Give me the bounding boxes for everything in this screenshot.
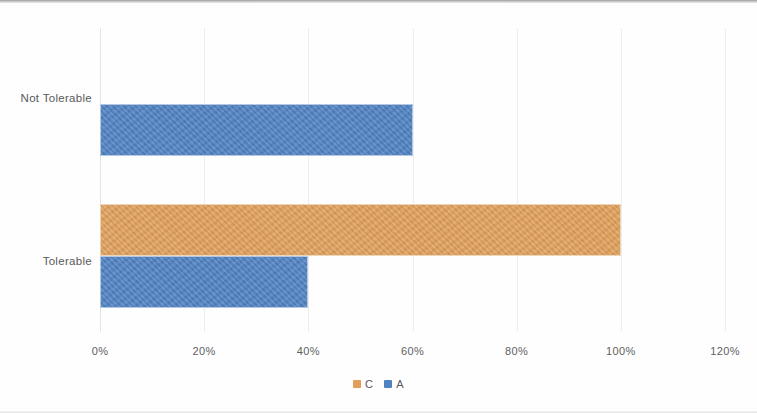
chart-legend: C A [0, 378, 757, 390]
x-tick-20%: 20% [174, 345, 234, 357]
x-tick-100%: 100% [591, 345, 651, 357]
bar-a-tolerable[interactable] [100, 256, 308, 308]
legend-swatch-c-icon [353, 380, 361, 388]
gridline-80% [517, 28, 518, 332]
legend-item-a[interactable]: A [384, 378, 404, 390]
gridline-100% [621, 28, 622, 332]
legend-label-a: A [396, 378, 404, 390]
category-label-tolerable: Tolerable [0, 255, 92, 267]
bar-c-tolerable[interactable] [100, 204, 621, 256]
gridline-120% [725, 28, 726, 332]
x-tick-60%: 60% [383, 345, 443, 357]
bar-a-not-tolerable[interactable] [100, 104, 413, 156]
legend-item-c[interactable]: C [353, 378, 373, 390]
x-tick-80%: 80% [487, 345, 547, 357]
bar-chart: Not Tolerable Tolerable 0%20%40%60%80%10… [0, 0, 757, 413]
category-label-not-tolerable: Not Tolerable [0, 92, 92, 104]
gridline-60% [413, 28, 414, 332]
x-tick-0%: 0% [70, 345, 130, 357]
legend-label-c: C [365, 378, 373, 390]
scan-top-edge [0, 0, 757, 3]
x-tick-120%: 120% [695, 345, 755, 357]
gridline-40% [308, 28, 309, 332]
plot-area [100, 28, 725, 332]
legend-swatch-a-icon [384, 380, 392, 388]
x-tick-40%: 40% [278, 345, 338, 357]
